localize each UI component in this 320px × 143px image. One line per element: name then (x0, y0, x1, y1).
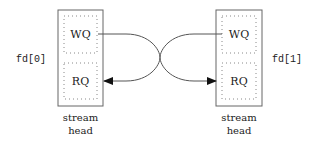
fd0-label: fd[0] (16, 54, 46, 65)
right-caption-stream: stream (221, 112, 257, 123)
right-read-queue-label: RQ (230, 75, 247, 88)
connection-left-wq-to-right-rq (98, 34, 216, 81)
connection-right-wq-to-left-rq (104, 34, 222, 81)
right-stream-head-box (216, 10, 262, 106)
fd1-label: fd[1] (272, 54, 302, 65)
left-caption-head: head (68, 125, 93, 136)
left-caption-stream: stream (63, 112, 99, 123)
right-caption-head: head (227, 125, 252, 136)
right-stream-head: WQ RQ stream head (216, 10, 262, 136)
stream-pipe-diagram: WQ RQ stream head fd[0] WQ RQ stream hea… (0, 0, 320, 143)
left-stream-head: WQ RQ stream head (58, 10, 103, 136)
left-write-queue-label: WQ (70, 28, 90, 41)
left-read-queue-label: RQ (72, 75, 89, 88)
left-stream-head-box (58, 10, 103, 106)
right-write-queue-label: WQ (229, 28, 249, 41)
